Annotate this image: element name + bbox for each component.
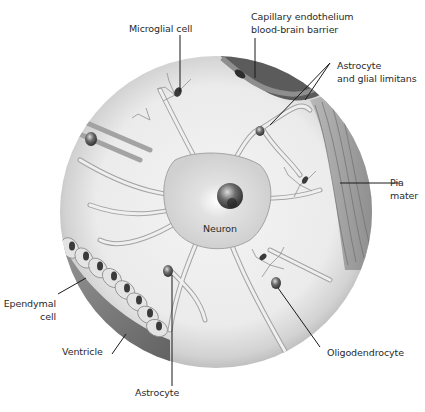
label-microglial-cell: Microglial cell xyxy=(129,23,192,35)
oligodendrocyte-nucleus xyxy=(271,277,281,289)
label-astrocyte-glial-line1: Astrocyte xyxy=(337,60,381,72)
label-pia-line1: Pia xyxy=(390,177,404,189)
label-neuron: Neuron xyxy=(203,223,237,235)
label-oligodendrocyte: Oligodendrocyte xyxy=(327,347,404,359)
label-pia-line2: mater xyxy=(390,190,418,202)
label-capillary-line2: blood-brain barrier xyxy=(251,24,338,36)
label-astrocyte: Astrocyte xyxy=(135,387,179,399)
astrocyte-top-nucleus xyxy=(256,126,265,136)
label-ventricle: Ventricle xyxy=(62,346,103,358)
glial-diagram: Microglial cell Capillary endothelium bl… xyxy=(0,0,425,412)
label-ependymal-line1: Ependymal xyxy=(4,298,56,310)
label-capillary-line1: Capillary endothelium xyxy=(251,11,354,23)
label-astrocyte-glial-line2: and glial limitans xyxy=(337,73,417,85)
label-ependymal-line2: cell xyxy=(40,311,56,323)
